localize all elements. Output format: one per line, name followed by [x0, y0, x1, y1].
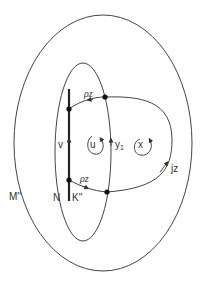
label-y1: y1 — [115, 139, 124, 151]
vertex-bottom-left — [66, 177, 71, 182]
label-u: u — [90, 139, 96, 150]
label-top-rhoz: ρz — [83, 88, 93, 99]
diagram-canvas: ρz ρz jz v y1 u x K'' N M'' — [0, 0, 204, 284]
label-bottom-rhoz: ρz — [79, 173, 89, 184]
inner-region-n — [55, 63, 111, 241]
vertex-bottom-right — [104, 189, 109, 194]
label-jz: jz — [170, 163, 178, 174]
vertex-top-right — [102, 94, 107, 99]
label-v: v — [58, 139, 63, 150]
label-n: N — [53, 192, 60, 203]
label-k: K'' — [72, 192, 83, 203]
label-m: M'' — [9, 191, 21, 202]
label-x: x — [138, 139, 143, 150]
arrow-bottom-rhoz — [82, 186, 87, 188]
vertex-top-left — [66, 106, 71, 111]
